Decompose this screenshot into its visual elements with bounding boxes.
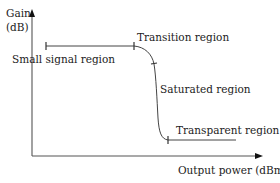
label-transition-region: Transition region [137,31,229,43]
x-axis-arrow-icon [255,153,263,159]
label-small-signal-region: Small signal region [12,53,115,65]
gain-vs-output-power-diagram: Gain (dB) Small signal region Transition… [0,0,280,183]
x-axis [32,153,263,159]
tick-saturation-start [151,63,157,64]
label-transparent-region: Transparent region [176,124,280,136]
label-saturated-region: Saturated region [160,83,251,95]
y-axis-label-line2: (dB) [6,21,29,33]
y-axis [29,9,35,156]
y-axis-label-line1: Gain [6,7,31,19]
x-axis-label: Output power (dBm) [178,164,280,176]
